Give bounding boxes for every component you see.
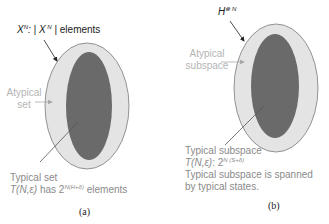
caption-b: (b) <box>268 200 280 211</box>
atypical-set-label: Atypical set <box>6 87 42 111</box>
typical-subspace-ellipse <box>251 34 299 138</box>
panel-a-top-label: XN: | X N | elements <box>17 24 100 36</box>
panel-a-sets <box>35 40 129 169</box>
caption-a: (a) <box>79 206 90 217</box>
typical-set-label: Typical set T(N,ε) has 2N(H+δ) elements <box>10 172 127 196</box>
panel-b-spaces <box>221 21 318 152</box>
arrow-to-hilbert-space <box>230 21 244 41</box>
atypical-subspace-label: Atypical subspace <box>185 48 229 72</box>
set-symbol: X <box>17 24 24 35</box>
typical-set-ellipse <box>66 52 112 160</box>
typical-subspace-label: Typical subspace T(N,ε): 2N (S+δ) Typica… <box>185 145 313 193</box>
panel-b-top-label: H⊗ N <box>218 6 236 18</box>
arrow-to-outer-set <box>44 40 57 61</box>
